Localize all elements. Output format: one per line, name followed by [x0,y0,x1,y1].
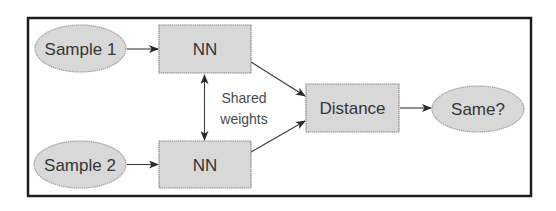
same-label: Same? [451,100,505,119]
node-sample1: Sample 1 [35,25,126,72]
node-sample2: Sample 2 [34,141,126,188]
sample2-label: Sample 2 [44,156,116,175]
nn2-label: NN [193,156,218,175]
annotation-line2: weights [219,111,267,127]
node-distance: Distance [306,84,399,132]
node-nn2: NN [159,141,251,188]
nn1-label: NN [193,40,218,59]
siamese-network-diagram: Sample 1 Sample 2 NN NN Distance Same? S… [0,0,556,211]
node-nn1: NN [159,25,251,73]
annotation-line1: Shared [221,90,266,106]
node-same: Same? [432,86,524,132]
distance-label: Distance [319,99,385,118]
sample1-label: Sample 1 [45,40,117,59]
